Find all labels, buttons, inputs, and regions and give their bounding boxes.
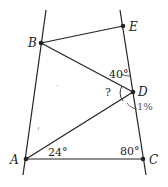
label-b: B (27, 36, 37, 50)
label-c: C (149, 153, 158, 167)
angle-label-d-upper: 40° (109, 68, 129, 81)
label-a: A (9, 153, 19, 167)
angle-label-a: 24° (48, 146, 68, 159)
point-a (24, 157, 29, 162)
geometry-diagram: A B C D E 24° 80° 40° ? 1% (0, 0, 168, 187)
angle-label-d-unknown: ? (105, 86, 111, 99)
handwritten-mark: 1% (137, 101, 153, 112)
left-line (23, 10, 46, 175)
segment-ad (26, 92, 133, 159)
angle-label-c: 80° (120, 145, 140, 158)
pencil-mark (57, 85, 58, 86)
point-c (141, 157, 146, 162)
label-d: D (137, 85, 148, 99)
point-d (131, 90, 136, 95)
point-b (39, 41, 44, 46)
point-e (121, 24, 126, 29)
segment-be (41, 26, 123, 43)
pencil-mark (38, 127, 39, 130)
label-e: E (128, 20, 138, 34)
